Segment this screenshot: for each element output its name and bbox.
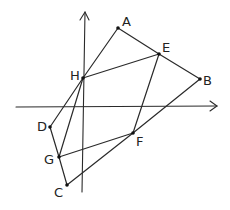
- point-f: [131, 131, 135, 135]
- y-axis: [82, 12, 85, 192]
- segment-he: [83, 54, 159, 78]
- segment-ef: [133, 54, 159, 133]
- point-label-d: D: [37, 119, 47, 134]
- point-h: [81, 76, 85, 80]
- segment-cg: [59, 157, 67, 185]
- segment-fc: [67, 133, 133, 185]
- segment-eb: [159, 54, 200, 79]
- point-label-h: H: [70, 68, 80, 83]
- segment-ha: [83, 28, 118, 78]
- point-b: [198, 77, 202, 81]
- point-g: [57, 155, 61, 159]
- point-e: [157, 52, 161, 56]
- geometry-diagram: ABCDEFGH: [0, 0, 230, 210]
- segment-ae: [118, 28, 159, 54]
- segment-gh: [59, 78, 83, 157]
- point-label-c: C: [54, 185, 63, 200]
- point-label-b: B: [203, 73, 212, 88]
- point-d: [48, 125, 52, 129]
- point-label-g: G: [44, 152, 54, 167]
- point-a: [116, 26, 120, 30]
- x-axis: [16, 106, 217, 107]
- segment-fg: [59, 133, 133, 157]
- segment-dh: [50, 78, 83, 127]
- point-label-a: A: [122, 14, 131, 29]
- point-c: [65, 183, 69, 187]
- point-label-f: F: [136, 134, 143, 149]
- point-label-e: E: [162, 40, 170, 55]
